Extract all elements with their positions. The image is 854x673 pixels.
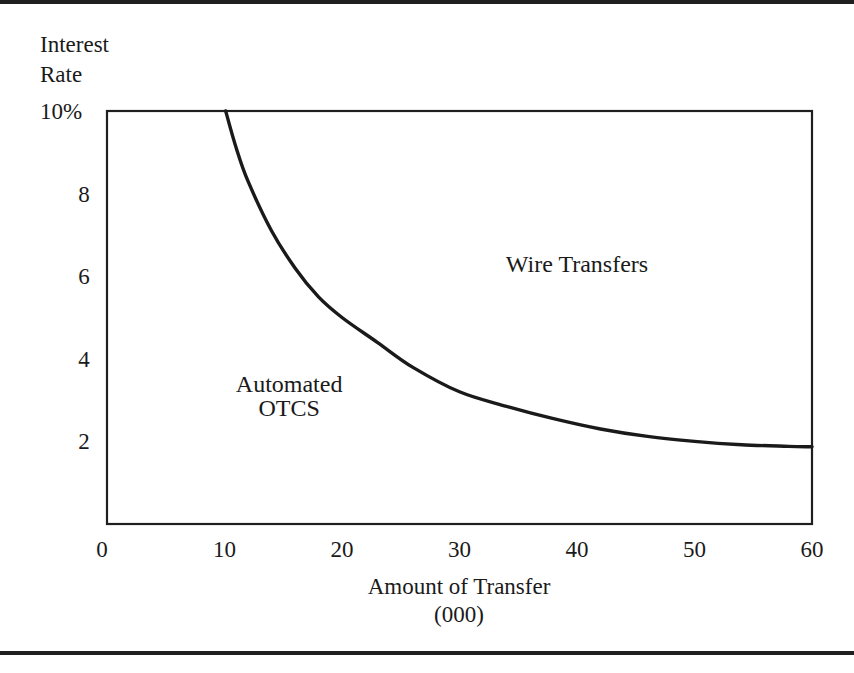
region-label: Automated bbox=[236, 371, 343, 397]
x-tick-label: 10 bbox=[213, 537, 236, 562]
x-tick-label: 30 bbox=[448, 537, 471, 562]
x-axis-title-line: (000) bbox=[434, 602, 484, 627]
y-tick-label: 6 bbox=[78, 264, 90, 289]
region-label: OTCS bbox=[258, 395, 319, 421]
x-tick-label: 60 bbox=[801, 537, 824, 562]
y-tick-label: 8 bbox=[78, 182, 90, 207]
x-tick-label: 20 bbox=[331, 537, 354, 562]
y-tick-label: 4 bbox=[78, 347, 90, 372]
x-axis-label: Amount of Transfer(000) bbox=[368, 574, 551, 627]
region-labels: Wire TransfersAutomatedOTCS bbox=[236, 251, 648, 422]
y-axis-title-line: Interest bbox=[40, 32, 110, 57]
x-axis-title-line: Amount of Transfer bbox=[368, 574, 551, 599]
y-axis-title-line: Rate bbox=[40, 62, 82, 87]
y-tick-label: 10% bbox=[40, 99, 82, 124]
plot-area-frame bbox=[107, 111, 812, 524]
y-axis-ticks: 246810% bbox=[40, 99, 90, 454]
interest-rate-vs-transfer-chart: InterestRate 246810% 0102030405060 Amoun… bbox=[0, 0, 854, 673]
x-axis-ticks: 0102030405060 bbox=[96, 537, 823, 562]
x-tick-label: 50 bbox=[683, 537, 706, 562]
x-tick-label: 0 bbox=[96, 537, 108, 562]
x-tick-label: 40 bbox=[566, 537, 589, 562]
y-tick-label: 2 bbox=[78, 429, 90, 454]
y-axis-label: InterestRate bbox=[40, 32, 110, 87]
region-label: Wire Transfers bbox=[506, 251, 648, 277]
